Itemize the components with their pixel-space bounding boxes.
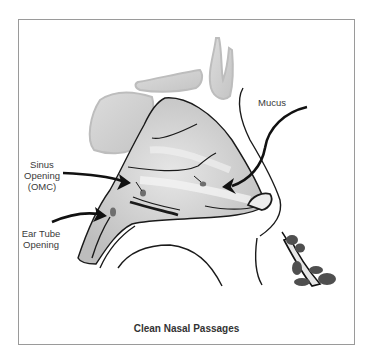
sinus-opening-label: Sinus Opening (OMC) xyxy=(20,159,64,192)
nostril-drip xyxy=(282,232,336,286)
mucus-label: Mucus xyxy=(258,97,286,108)
sinus-opening-line1: Sinus xyxy=(20,159,64,170)
sinus-opening-line2: Opening xyxy=(20,170,64,181)
sinus-opening-line3: (OMC) xyxy=(20,181,64,192)
sinus-opening-arrow xyxy=(63,173,122,181)
ear-tube-line2: Opening xyxy=(20,239,62,250)
ear-tube-opening-label: Ear Tube Opening xyxy=(20,228,62,250)
ear-tube-line1: Ear Tube xyxy=(20,228,62,239)
mucus-label-text: Mucus xyxy=(258,97,286,108)
diagram-caption: Clean Nasal Passages xyxy=(18,323,355,334)
